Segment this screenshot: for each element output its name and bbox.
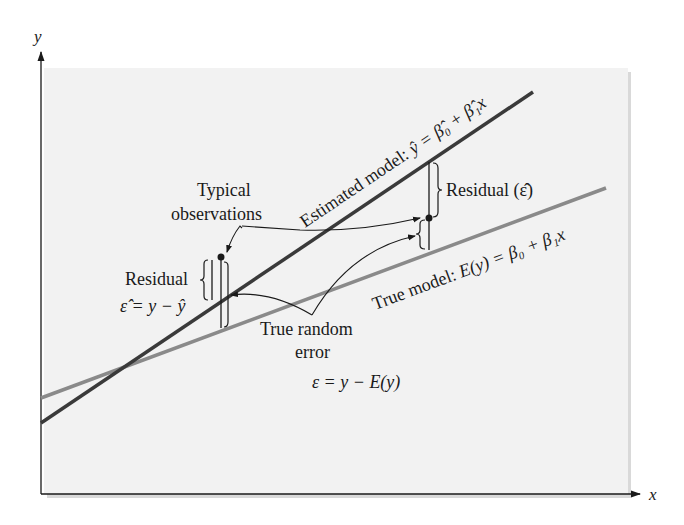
true-error-label-1: True random [260, 319, 353, 339]
left-observation-point [218, 254, 225, 261]
typical-observations-label-1: Typical [197, 180, 251, 200]
left-residual-label: Residual [125, 269, 188, 289]
right-observation-point [426, 215, 433, 222]
true-error-formula: ε = y − E(y) [312, 372, 400, 393]
true-error-label-2: error [295, 342, 330, 362]
y-axis-label: y [32, 27, 42, 46]
x-axis-label: x [648, 485, 657, 504]
typical-observations-label-2: observations [171, 204, 262, 224]
right-residual-label: Residual (ε̂) [446, 180, 533, 201]
left-residual-formula: ε̂ = y − ŷ [120, 296, 185, 316]
regression-diagram: y x Typical observations Residual (ε̂) R… [0, 0, 684, 525]
